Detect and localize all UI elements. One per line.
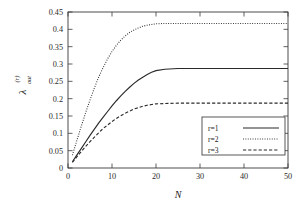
y-tick-label: 0.45 — [49, 8, 63, 17]
x-tick-label: 0 — [66, 172, 70, 181]
line-chart: 00.050.10.150.20.250.30.350.40.45 010203… — [0, 0, 304, 205]
x-axis-title: N — [174, 189, 183, 200]
y-axis-title-symbol: λ — [16, 89, 28, 95]
legend-label-2: r=3 — [208, 146, 219, 155]
legend-label-0: r=1 — [208, 124, 219, 133]
chart-legend: r=1r=2r=3 — [202, 117, 285, 155]
y-axis-title-subscript: out — [25, 76, 32, 84]
y-tick-label: 0.4 — [53, 25, 63, 34]
chart-figure: 00.050.10.150.20.250.30.350.40.45 010203… — [0, 0, 304, 205]
y-tick-label: 0.35 — [49, 43, 63, 52]
x-tick-label: 40 — [240, 172, 248, 181]
y-tick-label: 0.3 — [53, 60, 63, 69]
legend-label-1: r=2 — [208, 135, 219, 144]
x-tick-label: 10 — [108, 172, 116, 181]
y-tick-label: 0.05 — [49, 147, 63, 156]
y-tick-label: 0.1 — [53, 129, 63, 138]
y-tick-label: 0.25 — [49, 77, 63, 86]
x-tick-label: 30 — [196, 172, 204, 181]
y-tick-label: 0.15 — [49, 112, 63, 121]
y-tick-label: 0.2 — [53, 95, 63, 104]
y-axis-title-superscript: (r) — [13, 76, 21, 83]
y-tick-label: 0 — [59, 164, 63, 173]
x-tick-label: 20 — [152, 172, 160, 181]
x-tick-label: 50 — [284, 172, 292, 181]
